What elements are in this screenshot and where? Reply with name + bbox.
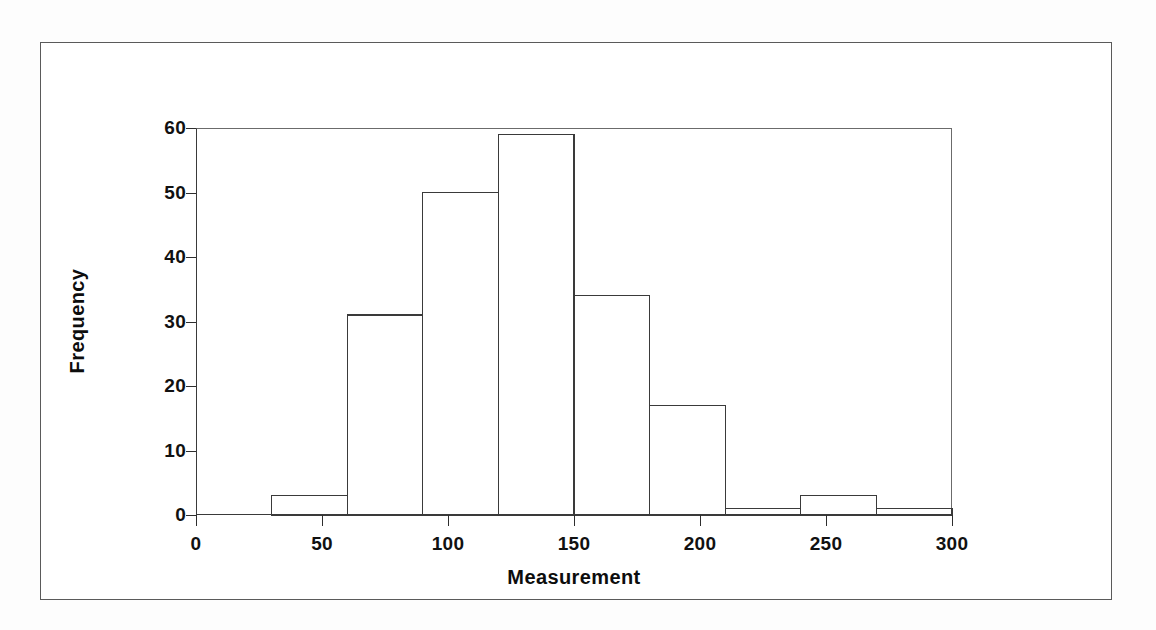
histogram-bar xyxy=(272,496,348,515)
y-tick-mark xyxy=(186,257,196,258)
x-tick-label: 300 xyxy=(936,533,969,555)
y-tick-mark xyxy=(186,386,196,387)
histogram-bars xyxy=(196,128,952,515)
x-tick-label: 0 xyxy=(191,533,202,555)
y-tick-label: 50 xyxy=(120,182,186,204)
x-tick-mark xyxy=(574,515,575,526)
y-tick-label: 40 xyxy=(120,246,186,268)
x-tick-mark xyxy=(826,515,827,526)
x-tick-label: 100 xyxy=(432,533,465,555)
histogram-bar xyxy=(347,315,423,515)
y-tick-mark xyxy=(186,193,196,194)
y-axis-title: Frequency xyxy=(66,269,89,374)
histogram-bar xyxy=(801,496,877,515)
y-tick-label: 0 xyxy=(120,504,186,526)
figure-canvas: Frequency 0102030405060 0501001502002503… xyxy=(0,0,1156,630)
y-tick-label: 60 xyxy=(120,117,186,139)
x-tick-mark xyxy=(448,515,449,526)
y-tick-label: 20 xyxy=(120,375,186,397)
histogram-bar xyxy=(498,134,574,515)
x-tick-mark xyxy=(322,515,323,526)
y-tick-mark xyxy=(186,322,196,323)
y-tick-mark xyxy=(186,515,196,516)
histogram-bar xyxy=(650,405,726,515)
plot-area xyxy=(196,128,952,515)
x-tick-label: 200 xyxy=(684,533,717,555)
x-tick-mark xyxy=(952,515,953,526)
histogram-bar xyxy=(423,193,499,516)
x-tick-mark xyxy=(196,515,197,526)
x-tick-label: 50 xyxy=(311,533,333,555)
x-tick-label: 250 xyxy=(810,533,843,555)
histogram-bar xyxy=(574,296,650,515)
histogram-bar xyxy=(876,509,952,515)
x-tick-mark xyxy=(700,515,701,526)
y-tick-label: 10 xyxy=(120,440,186,462)
x-tick-label: 150 xyxy=(558,533,591,555)
y-tick-mark xyxy=(186,128,196,129)
x-axis-title: Measurement xyxy=(507,566,640,589)
histogram-bar xyxy=(725,509,801,515)
y-tick-label: 30 xyxy=(120,311,186,333)
y-tick-mark xyxy=(186,451,196,452)
